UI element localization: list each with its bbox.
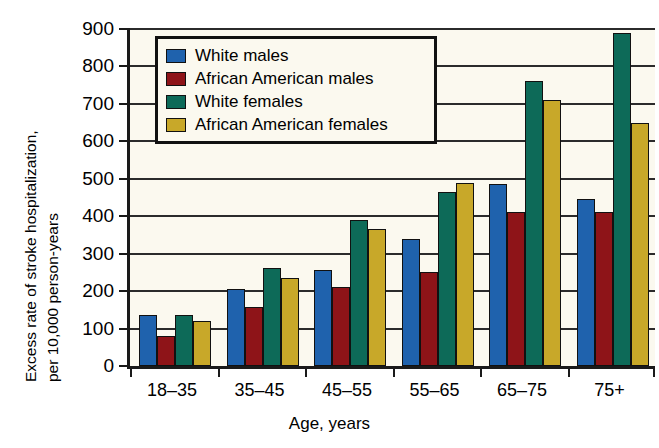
bar [281,278,299,366]
y-tick-label-200: 200 [82,281,114,300]
x-axis-title: Age, years [0,414,659,434]
legend-swatch-icon [166,72,186,86]
y-tick-label-700: 700 [82,94,114,113]
bar [420,272,438,366]
bar [263,268,281,366]
bar [139,315,157,366]
y-tick-label-100: 100 [82,319,114,338]
chart-figure: Excess rate of stroke hospitalization, p… [0,0,659,448]
bar [631,123,649,366]
legend-label: White males [195,47,289,65]
bar [157,336,175,366]
legend-item: African American males [166,67,426,90]
y-axis-title: Excess rate of stroke hospitalization, p… [0,0,58,400]
y-tick-100 [119,328,130,330]
bar [368,229,386,366]
y-tick-200 [119,290,130,292]
x-axis-tick-labels: 18–3535–4545–5555–6565–7575+ [127,379,655,403]
y-tick-label-300: 300 [82,244,114,263]
bar [175,315,193,366]
x-tick [305,366,307,377]
bar-group [568,29,656,366]
x-tick [218,366,220,377]
bar [245,307,263,366]
y-axis-title-line-1: Excess rate of stroke hospitalization, [22,130,40,382]
legend-label: White females [195,93,303,111]
bar [613,33,631,366]
x-tick-label: 55–65 [390,379,480,401]
y-tick-label-500: 500 [82,169,114,188]
y-tick-label-800: 800 [82,56,114,75]
y-tick-label-0: 0 [103,356,114,375]
y-tick-label-400: 400 [82,206,114,225]
bar [489,184,507,366]
x-tick-label: 35–45 [215,379,305,401]
bar [402,239,420,366]
x-tick [653,366,655,377]
y-tick-label-900: 900 [82,19,114,38]
x-tick-label: 65–75 [477,379,567,401]
bar [438,192,456,366]
y-tick-900 [119,28,130,30]
x-tick [393,366,395,377]
bar [577,199,595,366]
bar [227,289,245,366]
x-tick [480,366,482,377]
y-tick-600 [119,140,130,142]
x-tick [130,366,132,377]
x-tick-label: 75+ [565,379,655,401]
legend-swatch-icon [166,118,186,132]
bar [314,270,332,366]
legend-swatch-icon [166,49,186,63]
legend-item: African American females [166,113,426,136]
y-tick-500 [119,178,130,180]
y-tick-400 [119,215,130,217]
bar [332,287,350,366]
x-tick-label: 45–55 [302,379,392,401]
chart-legend: White malesAfrican American malesWhite f… [155,36,437,144]
bar [350,220,368,366]
bar [543,100,561,366]
x-tick [568,366,570,377]
y-tick-700 [119,103,130,105]
y-tick-800 [119,65,130,67]
legend-item: White females [166,90,426,113]
bar [595,212,613,366]
bar [507,212,525,366]
bar [456,183,474,366]
bar [193,321,211,366]
y-axis-tick-labels: 0100200300400500600700800900 [52,0,114,448]
y-tick-label-600: 600 [82,131,114,150]
legend-label: African American males [195,70,374,88]
x-tick-label: 18–35 [127,379,217,401]
y-tick-0 [119,365,130,367]
y-tick-300 [119,253,130,255]
legend-label: African American females [195,116,388,134]
legend-item: White males [166,44,426,67]
bar [525,81,543,366]
legend-swatch-icon [166,95,186,109]
bar-group [480,29,568,366]
